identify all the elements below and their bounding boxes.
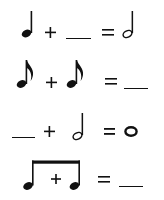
- equation-row-4: [0, 150, 164, 200]
- answer-blank[interactable]: [119, 186, 143, 187]
- quarter-note-icon: [20, 10, 36, 40]
- equals-sign: [102, 29, 114, 36]
- plus-sign: [51, 174, 61, 184]
- plus-sign: [45, 27, 56, 38]
- equation-row-2: [0, 50, 164, 98]
- eighth-note-icon: [65, 59, 85, 91]
- half-note-icon: [121, 10, 137, 40]
- answer-blank[interactable]: [124, 88, 148, 89]
- equation-row-1: [0, 0, 164, 48]
- plus-sign: [46, 77, 57, 88]
- answer-blank[interactable]: [66, 38, 91, 39]
- note-math-worksheet: [0, 0, 164, 200]
- answer-blank[interactable]: [12, 137, 35, 138]
- equals-sign: [98, 176, 110, 183]
- equation-row-3: [0, 100, 164, 150]
- eighth-note-icon: [15, 59, 35, 91]
- equals-sign: [104, 128, 115, 135]
- equals-sign: [105, 78, 117, 85]
- plus-sign: [44, 126, 55, 137]
- whole-note-icon: [124, 126, 138, 137]
- half-note-icon: [71, 112, 87, 142]
